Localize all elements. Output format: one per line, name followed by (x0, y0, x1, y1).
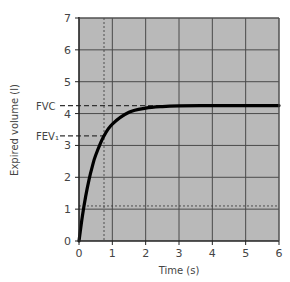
y-tick-label: 6 (64, 44, 71, 57)
marker-label: FVC (36, 101, 56, 112)
marker-labels: FVCFEV₁ (36, 101, 59, 142)
x-tick-label: 6 (276, 247, 283, 260)
x-axis-ticks: 0123456 (76, 241, 283, 260)
y-tick-label: 4 (64, 108, 71, 121)
x-tick-label: 2 (142, 247, 149, 260)
x-tick-label: 5 (242, 247, 249, 260)
y-tick-label: 0 (64, 235, 71, 248)
x-tick-label: 0 (76, 247, 83, 260)
marker-label: FEV₁ (36, 131, 59, 142)
y-axis-ticks: 01234567 (64, 12, 79, 248)
y-tick-label: 1 (64, 203, 71, 216)
y-axis-label: Expired volume (l) (9, 84, 20, 176)
y-tick-label: 2 (64, 171, 71, 184)
y-tick-label: 7 (64, 12, 71, 25)
x-tick-label: 1 (109, 247, 116, 260)
y-tick-label: 5 (64, 76, 71, 89)
x-tick-label: 4 (209, 247, 216, 260)
spirometry-chart: 0123456 01234567 FVCFEV₁ Time (s) Expire… (0, 0, 290, 282)
y-tick-label: 3 (64, 139, 71, 152)
x-tick-label: 3 (176, 247, 183, 260)
x-axis-label: Time (s) (158, 265, 200, 276)
